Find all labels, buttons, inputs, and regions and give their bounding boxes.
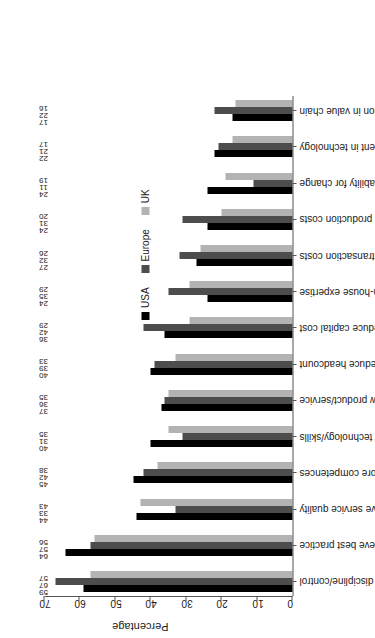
bar-rect — [182, 433, 292, 440]
bar-rect — [218, 143, 292, 150]
bar-rect — [164, 331, 292, 338]
bar-rect — [150, 368, 292, 375]
bar-rect — [189, 281, 292, 288]
bar-value-label: 57 — [39, 575, 48, 583]
bar-europe: 39 — [44, 361, 292, 368]
bar-value-label: 43 — [39, 502, 48, 510]
bar-usa: 44 — [44, 513, 292, 520]
bar-rect — [189, 317, 292, 324]
x-tick-mark — [292, 400, 296, 401]
bar-value-label: 26 — [39, 249, 48, 257]
bar-value-label: 29 — [39, 321, 48, 329]
y-tick-label: 60 — [74, 598, 85, 608]
bar-rect — [90, 542, 292, 549]
bar-rect — [157, 462, 292, 469]
y-axis-title: Percentage — [112, 621, 168, 632]
y-tick-label: 20 — [216, 598, 227, 608]
x-tick-mark — [292, 291, 296, 292]
x-tick-mark — [292, 255, 296, 256]
x-tick-mark — [292, 436, 296, 437]
bar-rect — [179, 252, 292, 259]
bar-rect — [168, 288, 292, 295]
y-axis: 010203040506070 — [44, 596, 292, 608]
bar-value-label: 33 — [39, 357, 48, 365]
bar-rect — [133, 476, 292, 483]
x-tick-cell: Reduce headcount — [292, 354, 372, 375]
bar-europe: 36 — [44, 397, 292, 404]
bar-group: 454238 — [44, 462, 292, 483]
y-tick-label: 40 — [145, 598, 156, 608]
bar-usa: 36 — [44, 331, 292, 338]
bar-group: 243529 — [44, 281, 292, 302]
x-tick-cell: Focus on core competences — [292, 462, 372, 483]
bar-rect — [136, 513, 292, 520]
bar-uk: 26 — [44, 245, 292, 252]
bar-value-label: 56 — [39, 538, 48, 546]
x-tick-mark — [292, 509, 296, 510]
bar-rect — [207, 187, 292, 194]
bar-uk: 35 — [44, 390, 292, 397]
x-tick-cell: Investment in technology — [292, 136, 372, 157]
bar-europe: 67 — [44, 578, 292, 585]
bar-rect — [207, 295, 292, 302]
bar-usa: 64 — [44, 549, 292, 556]
bar-uk: 20 — [44, 209, 292, 216]
bar-value-label: 38 — [39, 466, 48, 474]
bar-group: 443343 — [44, 499, 292, 520]
x-axis: Cost discipline/controlAim to achieve be… — [292, 96, 372, 596]
bar-group: 403135 — [44, 426, 292, 447]
y-tick-label: 70 — [39, 598, 50, 608]
bar-group: 403933 — [44, 354, 292, 375]
bar-group: 373635 — [44, 390, 292, 411]
bar-europe: 57 — [44, 542, 292, 549]
x-tick-mark — [292, 472, 296, 473]
bar-rect — [232, 114, 292, 121]
bar-usa: 17 — [44, 114, 292, 121]
bar-rect — [235, 100, 292, 107]
x-tick-cell: Cost discipline/control — [292, 571, 372, 592]
bar-usa: 40 — [44, 440, 292, 447]
bar-group: 645756 — [44, 535, 292, 556]
bar-rect — [143, 469, 292, 476]
bar-europe: 21 — [44, 143, 292, 150]
bar-rect — [207, 223, 292, 230]
bar-rect — [182, 216, 292, 223]
bar-rect — [225, 173, 292, 180]
y-tick-label: 0 — [287, 598, 293, 608]
x-tick-mark — [292, 219, 296, 220]
plot-area: 5967576457564433434542384031353736354039… — [44, 96, 292, 596]
bar-usa: 24 — [44, 187, 292, 194]
x-tick-cell: Enhance position in value chain — [292, 100, 372, 121]
bar-rect — [196, 259, 292, 266]
bar-europe: 31 — [44, 433, 292, 440]
bar-uk: 33 — [44, 354, 292, 361]
bar-usa: 59 — [44, 585, 292, 592]
bar-rect — [90, 571, 292, 578]
bar-uk: 29 — [44, 317, 292, 324]
bar-europe: 42 — [44, 469, 292, 476]
bar-rect — [83, 585, 292, 592]
bar-uk: 16 — [44, 100, 292, 107]
y-axis-line — [44, 596, 292, 597]
x-tick-cell: Improve service quality — [292, 499, 372, 520]
bar-usa: 37 — [44, 404, 292, 411]
bar-value-label: 16 — [39, 104, 48, 112]
x-tick-cell: Reduce transaction costs — [292, 245, 372, 266]
bar-rect — [164, 397, 292, 404]
bar-rect — [65, 549, 292, 556]
x-tick-mark — [292, 327, 296, 328]
bar-value-label: 17 — [39, 140, 48, 148]
bar-uk: 35 — [44, 426, 292, 433]
bar-usa: 22 — [44, 150, 292, 157]
x-tick-cell: Grow in-house expertise — [292, 281, 372, 302]
bar-rect — [175, 506, 292, 513]
bar-value-label: 19 — [39, 176, 48, 184]
bar-rect — [168, 390, 292, 397]
bar-europe: 35 — [44, 288, 292, 295]
bar-group: 241119 — [44, 173, 292, 194]
bar-rect — [232, 136, 292, 143]
bar-rect — [221, 209, 292, 216]
x-tick-mark — [292, 545, 296, 546]
x-tick-mark — [292, 581, 296, 582]
bar-europe: 22 — [44, 107, 292, 114]
